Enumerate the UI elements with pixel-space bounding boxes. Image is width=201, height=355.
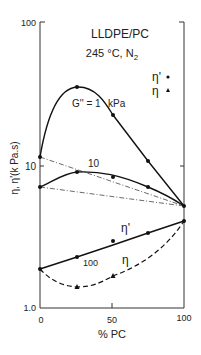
label-g1: G'' = 1 [72,98,101,109]
legend-circle-icon [166,75,169,78]
y-tick-10: 10 [25,161,37,172]
x-tick-50: 50 [107,315,117,325]
chart: LLDPE/PC 245 °C, N2 η' η G'' = 1 kPa 10 … [0,0,201,355]
legend: η' η [152,70,170,98]
chart-title: LLDPE/PC [91,27,149,41]
legend-eta-prime-label: η' [152,70,161,84]
plot-frame [40,22,184,308]
y-axis-label: η, η'(k Pa.s) [9,141,20,194]
label-g10: 10 [88,158,100,169]
x-tick-100: 100 [176,313,191,323]
additivity-lines [40,157,184,206]
y-tick-100: 100 [21,18,36,28]
label-g1-unit: kPa [108,98,126,109]
curve-g100-eta-prime [40,221,184,269]
label-g100: 100 [83,258,98,268]
eta-markers [75,273,116,289]
x-axis-label: % PC [98,328,126,340]
legend-triangle-icon [166,88,170,92]
label-curve-eta-prime: η' [121,221,130,235]
x-tick-0: 0 [38,315,43,325]
chart-subtitle: 245 °C, N2 [86,47,139,62]
label-curve-eta: η [122,253,129,267]
legend-eta-label: η [152,84,159,98]
y-tick-1: 1.0 [23,303,36,313]
